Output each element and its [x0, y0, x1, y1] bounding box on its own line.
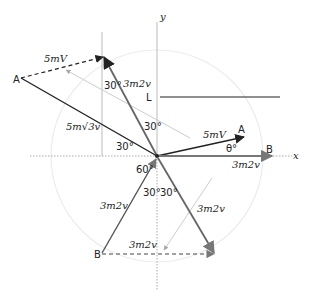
- point-A-left-label: A: [13, 74, 20, 85]
- point-B-bottom-label: B: [94, 249, 101, 260]
- label-right-B: 3m2v: [232, 159, 260, 170]
- label-dashed-top: 5mV: [44, 53, 69, 64]
- label-lower-right: 3m2v: [197, 203, 225, 214]
- angle-theta: θ°: [226, 143, 237, 154]
- point-B-right-label: B: [266, 144, 273, 155]
- point-A-right-label: A: [238, 124, 245, 135]
- label-lower-left: 3m2v: [100, 200, 128, 211]
- point-L-label: L: [146, 92, 152, 103]
- y-axis-label: y: [159, 11, 166, 22]
- angle-lower-30-left: 30°: [143, 187, 161, 198]
- label-dashed-bottom: 3m2v: [129, 239, 157, 250]
- momentum-vector-diagram: y x L 5mV A 5m√3v 3m2v 30° 30° 30° 5mV A…: [0, 0, 311, 298]
- angle-lower-60: 60°: [136, 164, 154, 175]
- angle-upper-near-origin: 30°: [144, 121, 162, 132]
- angle-lower-30-right: 30°: [160, 187, 178, 198]
- angle-top-vertical: 30°: [104, 80, 122, 91]
- angle-left-horizontal: 30°: [116, 141, 134, 152]
- x-axis-label: x: [293, 150, 299, 161]
- label-long-left: 5m√3v: [66, 121, 101, 132]
- label-upper-arrow: 3m2v: [123, 78, 151, 89]
- label-right-A: 5mV: [203, 129, 228, 140]
- origin-point: [155, 154, 159, 158]
